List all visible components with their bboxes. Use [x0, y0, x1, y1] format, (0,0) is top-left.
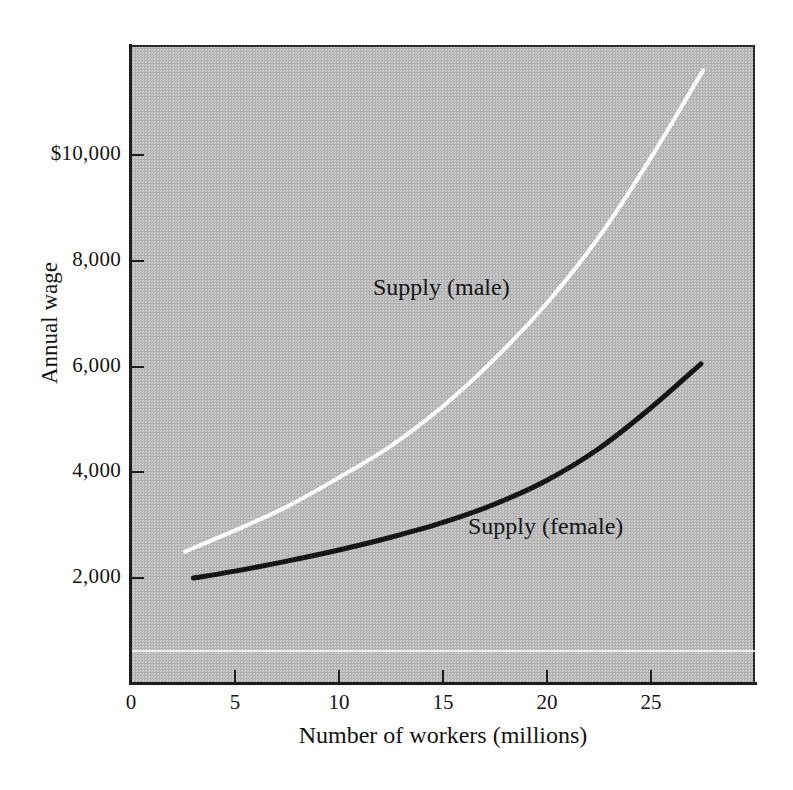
supply-male-label: Supply (male): [373, 274, 510, 301]
y-axis-title: Annual wage: [37, 213, 63, 433]
supply-female-curve: [193, 364, 701, 578]
curve-layer: [0, 0, 793, 790]
x-tick-label-5: 5: [195, 690, 275, 715]
y-tick-label-4000: 4,000: [3, 458, 121, 483]
x-axis-title: Number of workers (millions): [131, 722, 755, 749]
x-tick-15: [442, 670, 444, 683]
y-tick-label-10000: $10,000: [3, 141, 121, 166]
y-tick-label-2000: 2,000: [3, 564, 121, 589]
x-tick-5: [234, 670, 236, 683]
supply-curves-chart: 2,0004,0006,0008,000$10,000 0510152025 A…: [0, 0, 793, 790]
y-tick-2000: [131, 577, 144, 579]
y-tick-6000: [131, 366, 144, 368]
x-tick-label-20: 20: [507, 690, 587, 715]
y-tick-8000: [131, 260, 144, 262]
x-tick-label-0: 0: [91, 690, 171, 715]
x-tick-10: [338, 670, 340, 683]
y-tick-10000: [131, 154, 144, 156]
x-tick-25: [650, 670, 652, 683]
x-tick-label-15: 15: [403, 690, 483, 715]
x-tick-label-10: 10: [299, 690, 379, 715]
x-tick-label-25: 25: [611, 690, 691, 715]
x-tick-20: [546, 670, 548, 683]
supply-female-label: Supply (female): [468, 513, 623, 540]
y-tick-4000: [131, 471, 144, 473]
supply-male-curve: [185, 70, 703, 551]
